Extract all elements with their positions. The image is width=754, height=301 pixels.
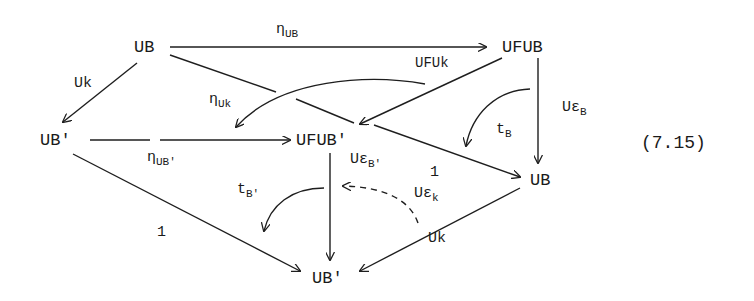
label-ufuk: UFUk: [415, 56, 449, 70]
label-eta-ub-prime: ηUB': [147, 150, 176, 168]
node-ufub-prime-center: UFUB': [296, 132, 347, 149]
label-main: Uk: [74, 75, 92, 92]
label-main: Uε: [414, 185, 432, 202]
arrow-one-right-seg1: [170, 55, 276, 92]
label-main: t: [237, 181, 246, 198]
label-u-eps-b: UεB: [562, 100, 587, 118]
label-sub: B: [505, 128, 512, 140]
label-one-left: 1: [157, 225, 166, 240]
node-ub-right: UB: [530, 172, 550, 189]
arrow-t-b-prime: [264, 188, 324, 231]
label-main: Uk: [428, 230, 446, 247]
label-sub: UB': [156, 156, 176, 168]
arrow-one-left: [73, 154, 300, 271]
label-uk-bottom: Uk: [428, 231, 446, 246]
arrow-eta-uk: [236, 80, 425, 127]
label-main: UFUk: [415, 55, 449, 71]
label-eta-ub: ηUB: [276, 22, 298, 40]
arrow-u-eps-k: [343, 186, 418, 223]
arrow-uk-left: [63, 63, 137, 122]
label-uk-left: Uk: [74, 76, 92, 91]
equation-number: (7.15): [641, 134, 706, 152]
node-ub-prime-bottom: UB': [312, 270, 343, 287]
arrow-one-right-seg2: [296, 99, 354, 123]
label-u-eps-k: Uεk: [414, 186, 439, 204]
node-ub-prime-left: UB': [40, 132, 71, 149]
label-main: η: [276, 21, 285, 38]
label-t-b: tB: [496, 122, 512, 140]
label-main: 1: [157, 224, 166, 241]
label-sub: B': [368, 158, 381, 170]
label-one-right: 1: [430, 165, 439, 180]
label-t-b-prime: tB': [237, 182, 259, 200]
label-main: η: [209, 91, 218, 108]
node-ub-top: UB: [134, 39, 154, 56]
label-sub: B: [580, 106, 587, 118]
label-main: 1: [430, 164, 439, 181]
label-main: t: [496, 121, 505, 138]
label-main: Uε: [562, 99, 580, 116]
label-sub: B': [246, 188, 259, 200]
label-main: Uε: [350, 151, 368, 168]
label-sub: k: [432, 192, 439, 204]
label-eta-uk: ηUk: [209, 92, 231, 110]
node-ufub-top: UFUB: [502, 39, 543, 56]
commutative-diagram: UB UFUB UB' UFUB' UB UB' ηUB UFUk Uk ηUk…: [0, 0, 754, 301]
label-u-eps-b-prime: UεB': [350, 152, 381, 170]
label-sub: UB: [285, 28, 298, 40]
label-main: η: [147, 149, 156, 166]
label-sub: Uk: [218, 98, 231, 110]
